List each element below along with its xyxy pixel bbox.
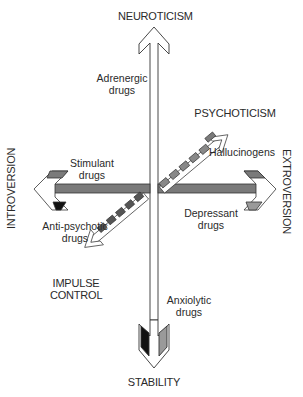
anxiolytic-line2: drugs (163, 306, 215, 318)
vertical-axis-arrow (139, 27, 169, 320)
axis-label-stability: STABILITY (124, 376, 184, 388)
axis-label-introversion: INTROVERSION (5, 149, 17, 229)
label-anxiolytic-drugs: Anxiolytic drugs (163, 294, 215, 318)
depressant-line2: drugs (178, 219, 244, 231)
antipsychotic-line1: Anti-psychotic (40, 220, 110, 232)
label-depressant-drugs: Depressant drugs (178, 207, 244, 231)
label-stimulant-drugs: Stimulant drugs (62, 157, 122, 181)
axis-label-psychoticism: PSYCHOTICISM (194, 107, 276, 119)
axis-label-extroversion: EXTROVERSION (281, 149, 293, 229)
hallucinogens-line1: Hallucinogens (206, 146, 278, 158)
stimulant-line1: Stimulant (62, 157, 122, 169)
personality-drug-diagram (0, 0, 303, 397)
impulse-line: IMPULSE (50, 277, 102, 289)
label-hallucinogens: Hallucinogens (206, 146, 278, 158)
label-adrenergic-drugs: Adrenergic drugs (94, 72, 150, 96)
depressant-line1: Depressant (178, 207, 244, 219)
anxiolytic-line1: Anxiolytic (163, 294, 215, 306)
adrenergic-line1: Adrenergic (94, 72, 150, 84)
stability-arrowhead (139, 320, 169, 368)
antipsychotic-line2: drugs (40, 232, 110, 244)
axis-label-impulse-control: IMPULSE CONTROL (50, 277, 102, 301)
adrenergic-line2: drugs (94, 84, 150, 96)
label-antipsychotic-drugs: Anti-psychotic drugs (40, 220, 110, 244)
axis-label-neuroticism: NEUROTICISM (118, 10, 190, 22)
control-line: CONTROL (50, 289, 102, 301)
stimulant-line2: drugs (62, 169, 122, 181)
